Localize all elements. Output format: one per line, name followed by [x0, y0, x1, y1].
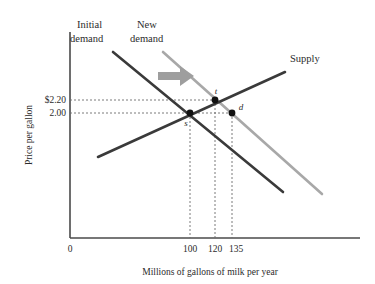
x-tick-label-135: 135 [229, 244, 244, 254]
x-axis-title: Millions of gallons of milk per year [142, 267, 278, 277]
curve-label-supply: Supply [290, 53, 321, 64]
demand-shift-arrow [158, 66, 194, 86]
x-tick-label-100: 100 [183, 244, 198, 254]
point-label-s: s [184, 118, 188, 128]
curve-label-new-demand-line1: New [137, 19, 157, 30]
curve-label-initial-demand-line1: Initial [77, 19, 102, 30]
guide-lines [70, 100, 232, 238]
chart-canvas: s t d Initial demand New demand Supply $… [0, 0, 375, 284]
point-label-t: t [215, 86, 218, 96]
point-d [229, 110, 236, 117]
curve-label-initial-demand-line2: demand [70, 33, 104, 44]
point-s [187, 110, 194, 117]
supply-demand-chart: s t d Initial demand New demand Supply $… [0, 0, 375, 284]
point-t [212, 97, 219, 104]
x-tick-label-0: 0 [68, 244, 73, 254]
y-tick-label-200: 2.00 [49, 108, 66, 118]
curve-initial-demand [113, 52, 283, 192]
point-label-d: d [239, 102, 244, 112]
y-tick-label-220: $2.20 [45, 95, 67, 105]
x-tick-label-120: 120 [208, 244, 223, 254]
y-axis-title: Price per gallon [24, 105, 34, 165]
curve-label-new-demand-line2: demand [130, 33, 164, 44]
